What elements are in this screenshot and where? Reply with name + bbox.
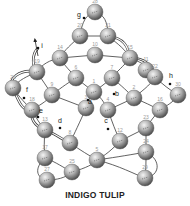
bead-24: 24 — [138, 138, 154, 160]
bead-icon — [122, 50, 138, 66]
bead-icon — [170, 87, 186, 103]
bead-icon — [5, 80, 21, 96]
bead-number: 6 — [75, 64, 78, 70]
bead-number: 19 — [34, 58, 40, 64]
bead-18: 18 — [24, 96, 40, 118]
bead-icon — [112, 133, 128, 149]
knot-dot-icon — [83, 17, 86, 20]
knot-dot-icon — [59, 127, 62, 130]
bead-29: 29 — [137, 164, 153, 186]
bead-icon — [104, 70, 120, 86]
bead-30: 30 — [170, 81, 186, 103]
bead-27: 27 — [39, 166, 55, 188]
bead-icon — [72, 28, 88, 44]
bead-icon — [137, 170, 153, 186]
beads: 2820211410151967112226912301834161381223… — [5, 0, 186, 188]
knot-dot-icon — [23, 97, 26, 100]
bead-8: 8 — [62, 129, 78, 151]
marker-label: b — [115, 90, 119, 97]
diagram-title: INDIGO TULIP — [0, 190, 190, 200]
bead-number: 20 — [77, 22, 83, 28]
marker-label: g — [77, 11, 81, 19]
bead-icon — [24, 102, 40, 118]
bead-number: 21 — [105, 22, 111, 28]
bead-17: 17 — [37, 144, 53, 166]
bead-2: 2 — [126, 84, 142, 106]
marker-g: g — [77, 11, 85, 19]
marker-label: i — [41, 42, 43, 49]
marker-h: h — [169, 72, 173, 85]
bead-21: 21 — [100, 22, 116, 44]
bead-16: 16 — [152, 96, 168, 118]
bead-number: 26 — [10, 74, 16, 80]
bead-number: 24 — [143, 138, 149, 144]
marker-label: c — [104, 117, 108, 124]
marker-label: e — [39, 107, 43, 114]
marker-label: f — [26, 86, 28, 93]
bead-7: 7 — [104, 64, 120, 86]
bead-number: 29 — [142, 164, 148, 170]
bead-number: 23 — [143, 114, 149, 120]
bead-12: 12 — [112, 127, 128, 149]
bead-19: 19 — [29, 58, 45, 80]
bead-icon — [138, 144, 154, 160]
bead-number: 12 — [117, 127, 123, 133]
bead-number: 10 — [92, 41, 98, 47]
bead-icon — [89, 152, 105, 168]
bead-icon — [37, 122, 53, 138]
bead-23: 23 — [138, 114, 154, 136]
knot-dot-icon — [37, 47, 40, 50]
bead-14: 14 — [52, 44, 68, 66]
bead-icon — [37, 150, 53, 166]
bead-number: 25 — [69, 158, 75, 164]
bead-number: 14 — [57, 44, 63, 50]
bead-number: 9 — [51, 81, 54, 87]
marker-b: b — [113, 90, 119, 97]
bead-number: 28 — [92, 0, 98, 4]
bead-icon — [100, 28, 116, 44]
bead-number: 11 — [143, 56, 148, 62]
bead-15: 15 — [122, 44, 138, 66]
marker-label: h — [169, 72, 173, 79]
bead-icon — [62, 135, 78, 151]
bead-20: 20 — [72, 22, 88, 44]
bead-number: 13 — [42, 116, 48, 122]
knot-dot-icon — [37, 116, 40, 119]
bead-6: 6 — [68, 64, 84, 86]
bead-number: 15 — [127, 44, 133, 50]
bead-icon — [87, 4, 103, 20]
bead-number: 16 — [157, 96, 163, 102]
bead-number: 30 — [175, 81, 181, 87]
bead-icon — [44, 87, 60, 103]
bead-10: 10 — [87, 41, 103, 63]
bead-icon — [152, 102, 168, 118]
bead-number: 1 — [93, 78, 96, 84]
marker-f: f — [23, 86, 28, 99]
marker-d: d — [58, 117, 62, 129]
bead-icon — [138, 120, 154, 136]
marker-c: c — [104, 117, 109, 130]
bead-25: 25 — [64, 158, 80, 180]
bead-icon — [100, 102, 116, 118]
bead-28: 28 — [87, 0, 103, 20]
bead-9: 9 — [44, 81, 60, 103]
bead-number: 5 — [96, 146, 99, 152]
marker-i: i — [37, 42, 44, 49]
bead-icon — [126, 90, 142, 106]
knot-dot-icon — [169, 83, 172, 86]
bead-icon — [147, 69, 163, 85]
bead-number: 27 — [44, 166, 50, 172]
bead-number: 7 — [111, 64, 114, 70]
bead-4: 4 — [100, 96, 116, 118]
bead-13: 13 — [37, 116, 53, 138]
marker-a: a — [87, 98, 92, 105]
knot-dot-icon — [107, 128, 110, 131]
bead-number: 17 — [42, 144, 48, 150]
bead-icon — [87, 47, 103, 63]
bead-5: 5 — [89, 146, 105, 168]
bead-1: 1 — [86, 78, 102, 100]
beadwork-diagram: 2820211410151967112226912301834161381223… — [0, 0, 190, 206]
bead-icon — [68, 70, 84, 86]
bead-icon — [64, 164, 80, 180]
bead-icon — [29, 64, 45, 80]
